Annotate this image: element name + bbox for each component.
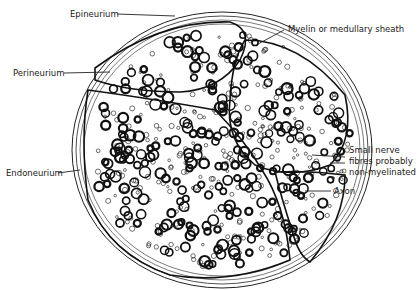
label-endoneurium: Endoneurium — [6, 168, 63, 178]
nerve-fibres — [94, 31, 352, 269]
label-perineurium: Perineurium — [13, 68, 64, 78]
label-epineurium: Epineurium — [70, 9, 119, 19]
nerve-cross-section-diagram: Epineurium Perineurium Endoneurium Myeli… — [0, 0, 419, 290]
label-small-nerve-fibres-line2: fibres probably — [349, 156, 413, 166]
label-axon: Axon — [334, 186, 355, 196]
label-myelin-sheath: Myelin or medullary sheath — [288, 24, 404, 34]
label-small-nerve-fibres-line3: non-myelinated — [349, 167, 416, 177]
label-small-nerve-fibres-line1: Small nerve — [349, 145, 400, 155]
